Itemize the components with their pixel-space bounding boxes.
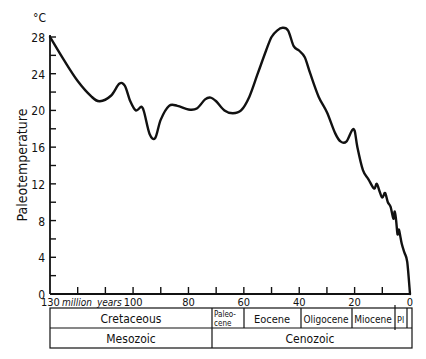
y-tick-label: 4 (38, 251, 45, 265)
x-tick-label: 100 (124, 296, 143, 309)
x-tick-label-130: 130 (41, 296, 60, 309)
x-tick-label: 80 (182, 296, 195, 309)
epoch-cretaceous: Cretaceous (101, 312, 162, 326)
era-cenozoic: Cenozoic (286, 332, 335, 346)
epoch-eocene: Eocene (254, 313, 290, 326)
x-tick-label: 60 (238, 296, 251, 309)
x-unit-label-years: years (96, 297, 122, 308)
x-tick-label: 20 (348, 296, 361, 309)
y-tick-label: 28 (31, 31, 45, 45)
y-unit-label: °C (33, 11, 46, 25)
epoch-paleocene-line2: cene (214, 319, 232, 328)
y-ticks: 0481216202428 (31, 31, 56, 302)
x-unit-label-million: million (62, 297, 92, 308)
y-tick-label: 12 (31, 178, 45, 192)
y-axis-label: Paleotemperature (14, 108, 30, 221)
era-mesozoic: Mesozoic (106, 332, 155, 346)
y-tick-label: 20 (31, 104, 45, 118)
x-ticks: 100806040200 (78, 287, 413, 309)
temperature-curve (50, 28, 410, 294)
epoch-paleocene-line1: Paleo- (214, 310, 236, 319)
x-tick-label: 40 (293, 296, 306, 309)
y-tick-label: 24 (31, 68, 45, 82)
epoch-miocene: Miocene (354, 314, 392, 325)
epoch-pliocene: Pl (397, 315, 404, 325)
paleotemperature-chart: 0481216202428 100806040200 °C Paleotempe… (0, 0, 426, 359)
epoch-oligocene: Oligocene (303, 314, 348, 325)
y-tick-label: 16 (31, 141, 45, 155)
x-tick-label: 0 (407, 296, 413, 309)
y-tick-label: 8 (38, 215, 45, 229)
